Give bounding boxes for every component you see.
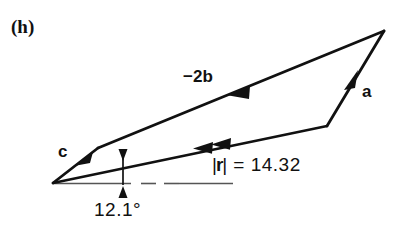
panel-label: (h)	[11, 17, 34, 36]
magnitude-equation: = 14.32	[233, 154, 300, 175]
vector-c-label: c	[58, 143, 67, 160]
vector-a-label: a	[362, 83, 371, 100]
angle-arrow-up	[119, 186, 128, 198]
resultant-magnitude-label: |r|= 14.32	[212, 155, 301, 174]
vector-minus-2b	[98, 31, 384, 148]
angle-arrow-down	[119, 149, 128, 161]
vector-b-arrowhead	[226, 86, 250, 99]
vector-b-label: −2b	[183, 68, 213, 85]
vector-diagram-figure: (h) −2b a c |r|= 14.32 12.1°	[0, 0, 409, 240]
vector-a-arrowhead	[344, 70, 358, 90]
vector-a	[327, 31, 384, 126]
magnitude-bar-right: |	[222, 154, 226, 175]
angle-value-label: 12.1°	[94, 200, 141, 219]
angle-indicator	[119, 149, 128, 198]
vector-diagram-canvas	[0, 0, 409, 240]
